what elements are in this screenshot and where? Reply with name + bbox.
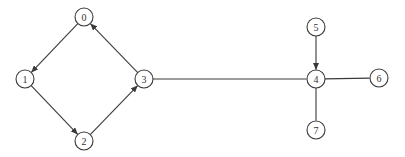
node-label: 1: [23, 74, 28, 85]
node-2: 2: [75, 132, 93, 150]
edge-3-0-arrow: [91, 24, 138, 73]
node-4: 4: [307, 70, 325, 88]
node-5: 5: [307, 18, 325, 36]
node-label: 6: [377, 73, 382, 84]
node-6: 6: [370, 69, 388, 87]
node-0: 0: [75, 8, 93, 26]
node-3: 3: [135, 70, 153, 88]
edge-1-2-arrow: [31, 86, 77, 135]
node-7: 7: [307, 121, 325, 139]
node-label: 4: [314, 74, 319, 85]
node-label: 7: [314, 125, 319, 136]
edge-4-6: [325, 78, 370, 79]
edge-2-3-arrow: [90, 86, 137, 135]
edge-0-1-arrow: [32, 24, 78, 73]
node-label: 3: [142, 74, 147, 85]
node-label: 0: [82, 12, 87, 23]
node-1: 1: [16, 70, 34, 88]
node-label: 2: [82, 136, 87, 147]
graph-diagram: 01234567: [0, 0, 405, 157]
node-label: 5: [314, 22, 319, 33]
